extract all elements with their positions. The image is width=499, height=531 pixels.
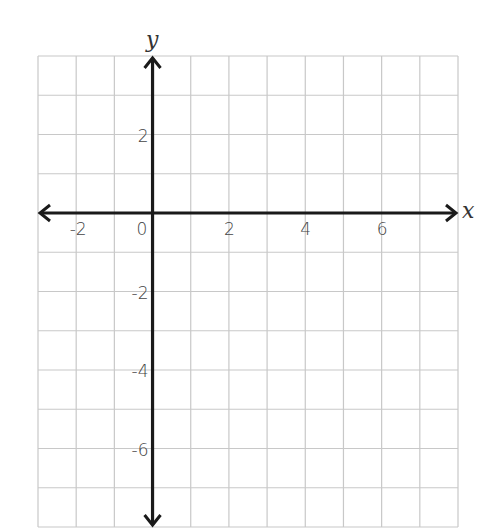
grid-lines xyxy=(38,56,458,527)
x-tick-label: 0 xyxy=(137,219,148,239)
y-tick-label: -2 xyxy=(132,283,149,303)
x-axis-label: x xyxy=(462,198,475,223)
y-tick-label: -4 xyxy=(132,361,149,381)
coordinate-plane: -202462-2-4-6 x y xyxy=(0,0,499,531)
y-tick-label: 2 xyxy=(138,126,149,146)
y-tick-label: -6 xyxy=(132,440,149,460)
x-tick-label: -2 xyxy=(70,219,87,239)
x-tick-label: 4 xyxy=(300,219,311,239)
x-tick-label: 6 xyxy=(377,219,388,239)
y-axis-label: y xyxy=(145,27,159,52)
x-tick-label: 2 xyxy=(224,219,235,239)
